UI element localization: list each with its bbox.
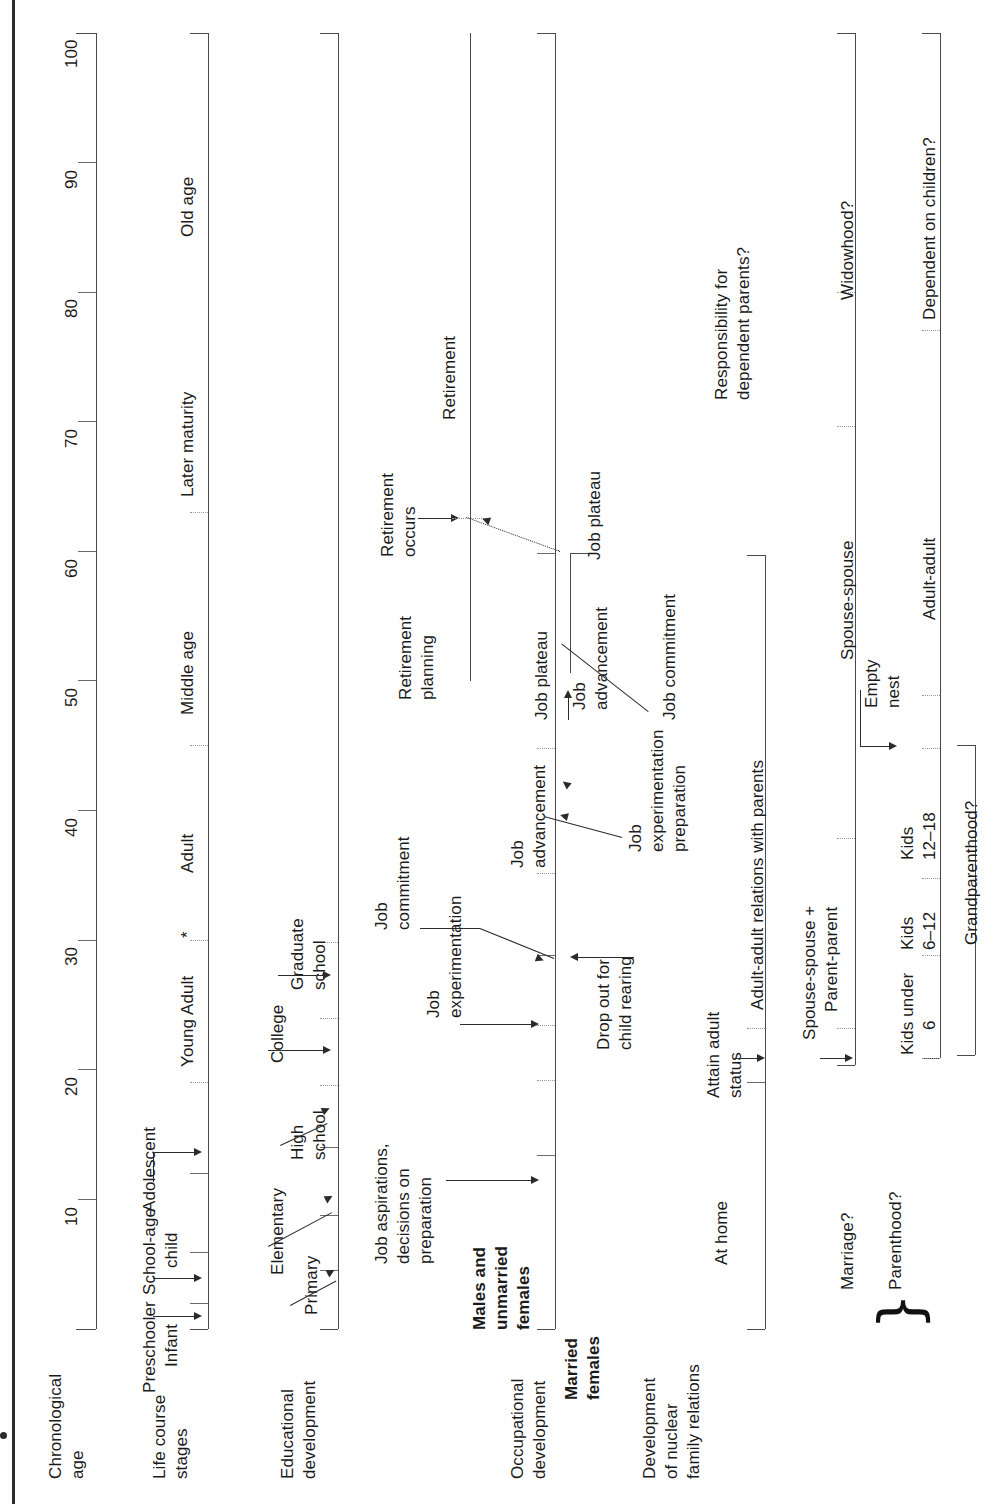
arrow-adolescent-line [153, 1152, 195, 1153]
row-label-education-2: development [300, 1381, 320, 1479]
axis-married-females [570, 553, 571, 673]
connector-married-exp-head [559, 811, 569, 821]
axis-educational-development [338, 33, 339, 1329]
lc-cap-bottom [190, 1329, 208, 1330]
tick-label-10: 10 [62, 1207, 82, 1226]
arrow-college-line [268, 1050, 324, 1051]
arrow-graduate-head [323, 971, 331, 979]
tick-label-50: 50 [62, 688, 82, 707]
label-kids-612-2: 6–12 [920, 912, 940, 950]
label-adolescent: Adolescent [140, 1127, 160, 1212]
lc-tick-30 [190, 940, 208, 941]
arrow-spouse-parent-head [845, 1054, 853, 1062]
label-asterisk: * [178, 931, 198, 938]
label-parenthood: Parenthood? [886, 1192, 906, 1290]
label-high-2: school [310, 1110, 330, 1160]
fk-tick-49 [922, 695, 940, 696]
tick-label-80: 80 [62, 299, 82, 318]
label-dropout-1: Drop out for [594, 959, 614, 1050]
tick-label-90: 90 [62, 170, 82, 189]
label-at-home: At home [712, 1201, 732, 1265]
label-widowhood: Widowhood? [838, 201, 858, 300]
arrow-spouse-parent-line [820, 1058, 846, 1059]
label-elementary: Elementary [268, 1188, 288, 1275]
fg-cap-top [957, 745, 975, 746]
lc-cap-top [190, 33, 208, 34]
oc-cap-top [537, 33, 555, 34]
tick-label-40: 40 [62, 818, 82, 837]
label-retirement-planning-2: planning [418, 635, 438, 700]
arrow-aspirations-line [446, 1180, 532, 1181]
label-kids-1218-2: 12–18 [920, 812, 940, 860]
label-kids-1218-1: Kids [898, 827, 918, 860]
label-married-exp-2: experimentation [648, 730, 668, 852]
label-job-advancement-mf-2: advancement [592, 607, 612, 710]
label-attain-1: Attain adult [704, 1012, 724, 1098]
ed-tick-18 [320, 1085, 338, 1086]
label-males-1: Males and [470, 1247, 490, 1330]
oc-tick-45 [537, 748, 555, 749]
label-kids-612-1: Kids [898, 917, 918, 950]
arrow-adolescent-head [194, 1148, 202, 1156]
arrow-dropout-line [578, 957, 634, 958]
arrow-infant-line [153, 1316, 195, 1317]
tick-20 [78, 1069, 96, 1070]
arrow-job-exp-line [460, 1024, 532, 1025]
tick-80 [78, 292, 96, 293]
label-job-exp-2: experimentation [446, 896, 466, 1018]
arrow-college-head [323, 1046, 331, 1054]
arrow-job-commitment-head [535, 954, 545, 964]
axis-occupational-development [555, 33, 556, 1329]
fp-tick-19 [747, 1082, 765, 1083]
arrow-retirement-occurs-line [418, 518, 452, 519]
label-adult-adult: Adult-adult [920, 538, 940, 620]
fk-cap-top [922, 33, 940, 34]
label-adult-adult-parents: Adult-adult relations with parents [748, 760, 768, 1010]
label-grandparenthood: Grandparenthood? [962, 801, 982, 945]
fg-cap-bottom [957, 1055, 975, 1056]
tick-40 [78, 810, 96, 811]
row-label-married-2: females [584, 1336, 604, 1400]
label-college: College [268, 1005, 288, 1063]
arrow-graduate-line [278, 975, 324, 976]
label-dropout-2: child rearing [616, 956, 636, 1050]
label-retirement: Retirement [440, 336, 460, 420]
arrow-attain-line [736, 1058, 758, 1059]
page-corner-dot [0, 1432, 7, 1439]
label-aspirations-3: preparation [416, 1177, 436, 1264]
label-marriage: Marriage? [838, 1213, 858, 1290]
arrow-job-commitment-diag [480, 928, 555, 959]
adolescent-connector [153, 1152, 154, 1182]
label-males-2: unmarried [492, 1246, 512, 1330]
axis-cap-bottom [76, 1329, 96, 1330]
connector-job-commitment-mf-head [560, 778, 571, 789]
tick-10 [78, 1199, 96, 1200]
fs-tick-23 [837, 1028, 855, 1029]
label-job-exp-1: Job [424, 990, 444, 1018]
label-retirement-planning-1: Retirement [396, 616, 416, 700]
row-label-occupation-1: Occupational [508, 1379, 528, 1479]
tick-90 [78, 162, 96, 163]
tick-70 [78, 421, 96, 422]
empty-nest-head [889, 742, 897, 750]
axis-retirement [470, 33, 471, 681]
label-spouse-parent-1: Spouse-spouse + [800, 906, 820, 1040]
tick-label-70: 70 [62, 429, 82, 448]
fk-tick-45 [922, 748, 940, 749]
fs-cap-bottom [837, 1065, 855, 1066]
label-spouse-spouse: Spouse-spouse [838, 541, 858, 660]
tick-60 [78, 551, 96, 552]
tick-label-30: 30 [62, 947, 82, 966]
fs-cap-top [837, 33, 855, 34]
fk-tick-29 [922, 955, 940, 956]
label-young-adult: Young Adult [178, 976, 198, 1067]
oc-tick-14 [537, 1155, 555, 1156]
lc-tick-12 [190, 1173, 208, 1174]
label-job-commitment-1: Job [372, 902, 392, 930]
row-label-lifecourse-2: stages [172, 1428, 192, 1479]
lc-tick-45 [190, 745, 208, 746]
label-kids-under-2: 6 [920, 1020, 940, 1030]
lc-tick-6 [190, 1252, 208, 1253]
arrow-elementary-head [324, 1193, 335, 1204]
label-responsibility-2: dependent parents? [734, 247, 754, 400]
